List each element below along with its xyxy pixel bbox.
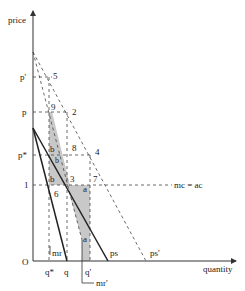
area-label-a-1: a <box>83 184 87 194</box>
x-axis-label: quantity <box>203 264 233 274</box>
area-label-b-1: b <box>50 144 55 154</box>
area-label-b-2: b <box>55 156 59 165</box>
diagram-canvas: price quantity O p' p p* 1 q* q q' mc = … <box>0 0 245 291</box>
price-tick-p: p <box>22 107 27 117</box>
area-label-a-2: a <box>83 234 87 244</box>
price-quantity-diagram: price quantity O p' p p* 1 q* q q' mc = … <box>0 0 245 291</box>
point-6: 6 <box>54 189 59 199</box>
mr-prime-label: mr' <box>96 278 108 288</box>
point-2: 2 <box>72 107 77 117</box>
point-8: 8 <box>72 143 77 153</box>
point-7: 7 <box>93 174 98 184</box>
price-tick-p-prime: p' <box>20 72 27 82</box>
area-label-b-3: b <box>50 174 55 184</box>
quantity-tick-q-prime: q' <box>85 267 92 277</box>
y-axis-label: price <box>8 15 26 25</box>
point-5: 5 <box>53 71 58 81</box>
price-tick-p-star: p* <box>18 150 28 160</box>
mc-ac-label: mc = ac <box>174 180 203 190</box>
point-3: 3 <box>70 174 75 184</box>
point-4: 4 <box>95 147 100 157</box>
ps-label: ps <box>110 248 119 258</box>
mr-label: mr <box>52 248 62 258</box>
ps-prime-label: ps' <box>150 248 160 258</box>
point-9: 9 <box>51 102 56 112</box>
price-tick-1: 1 <box>24 180 29 190</box>
quantity-tick-q: q <box>64 267 69 277</box>
quantity-tick-q-star: q* <box>45 267 55 277</box>
origin-label: O <box>22 257 29 267</box>
